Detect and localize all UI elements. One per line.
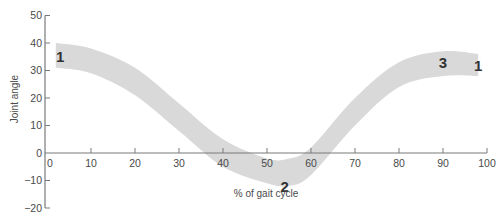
x-tick-label: 20: [129, 157, 141, 169]
y-tick-label: 10: [30, 119, 42, 131]
x-tick-label: 0: [47, 157, 53, 169]
y-tick-label: 30: [30, 64, 42, 76]
x-tick-label: 100: [478, 157, 496, 169]
gait-joint-angle-chart: −20−10010203040500102030405060708090100 …: [0, 0, 501, 219]
y-tick-label: 50: [30, 9, 42, 21]
phase-label: 3: [439, 54, 447, 71]
x-tick-label: 10: [85, 157, 97, 169]
x-tick-label: 70: [349, 157, 361, 169]
y-tick-label: −20: [24, 202, 42, 214]
y-tick-label: 40: [30, 37, 42, 49]
x-tick-label: 60: [305, 157, 317, 169]
y-axis-title: Joint angle: [9, 74, 20, 123]
x-tick-label: 40: [217, 157, 229, 169]
tick-labels: −20−10010203040500102030405060708090100: [24, 9, 496, 214]
x-tick-label: 50: [261, 157, 273, 169]
x-tick-label: 90: [437, 157, 449, 169]
x-axis-title: % of gait cycle: [234, 188, 299, 199]
y-tick-label: 0: [36, 147, 42, 159]
phase-label: 1: [56, 48, 64, 65]
y-tick-label: 20: [30, 92, 42, 104]
y-tick-label: −10: [24, 174, 42, 186]
x-tick-label: 30: [173, 157, 185, 169]
phase-label: 1: [474, 57, 482, 74]
x-tick-label: 80: [393, 157, 405, 169]
